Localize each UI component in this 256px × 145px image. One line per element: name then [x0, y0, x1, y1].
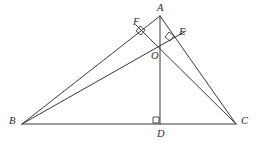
side-ab-line	[22, 16, 160, 124]
point-label-f: F	[133, 17, 139, 28]
vertex-label-b: B	[9, 116, 15, 127]
altitude-cf-line	[136, 25, 236, 124]
orthocenter-label-o: O	[151, 51, 159, 62]
triangle-altitudes-group	[22, 16, 236, 124]
geometry-canvas	[0, 0, 256, 145]
right-angle-mark-at-d	[153, 117, 159, 123]
geometry-figure: A B C D E F O	[0, 0, 256, 145]
triangle-sides-group	[22, 16, 236, 124]
point-label-d: D	[157, 129, 165, 140]
side-ac-line	[160, 16, 236, 124]
vertex-label-a: A	[157, 3, 163, 14]
altitude-be-line	[22, 31, 186, 124]
point-label-e: E	[179, 27, 185, 38]
vertex-label-c: C	[241, 116, 248, 127]
